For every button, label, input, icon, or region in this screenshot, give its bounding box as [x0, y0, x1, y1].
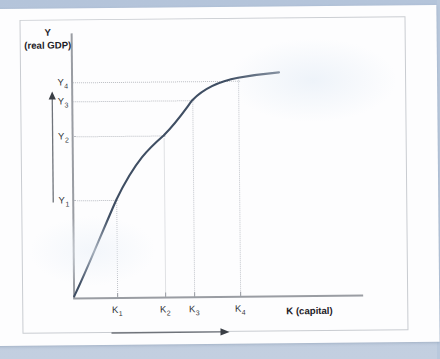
x-direction-arrow [109, 325, 231, 340]
x-tick-label-k2: K2 [154, 303, 176, 314]
k1-subscript: 1 [119, 309, 123, 316]
y-axis-title: Y (real GDP) [11, 25, 85, 52]
y-direction-arrow [45, 91, 60, 209]
production-function-curve [0, 5, 433, 359]
k1-text: K [112, 304, 119, 315]
production-function-chart: Y1 Y2 Y3 Y4 K1 K2 K3 K4 [0, 5, 433, 359]
x-tick-label-k1: K1 [106, 304, 128, 315]
x-axis-title: K (capital) [286, 305, 332, 316]
y-axis-title-line2: (real GDP) [11, 38, 85, 52]
k3-subscript: 3 [196, 309, 200, 316]
y3-subscript: 3 [64, 101, 68, 108]
y2-subscript: 2 [65, 136, 69, 143]
k3-text: K [189, 303, 196, 314]
y1-subscript: 1 [65, 200, 69, 207]
x-tick-label-k4: K4 [229, 303, 251, 314]
k4-subscript: 4 [242, 308, 246, 315]
x-tick-label-k3: K3 [183, 303, 205, 314]
y4-subscript: 4 [64, 82, 68, 89]
y4-text: Y [57, 76, 64, 87]
textbook-page: Y1 Y2 Y3 Y4 K1 K2 K3 K4 [0, 5, 440, 346]
k2-subscript: 2 [167, 309, 171, 316]
y-axis-title-line1: Y [11, 25, 85, 39]
k2-text: K [160, 303, 167, 314]
k4-text: K [235, 303, 242, 314]
y-tick-label-y4: Y4 [48, 76, 68, 87]
